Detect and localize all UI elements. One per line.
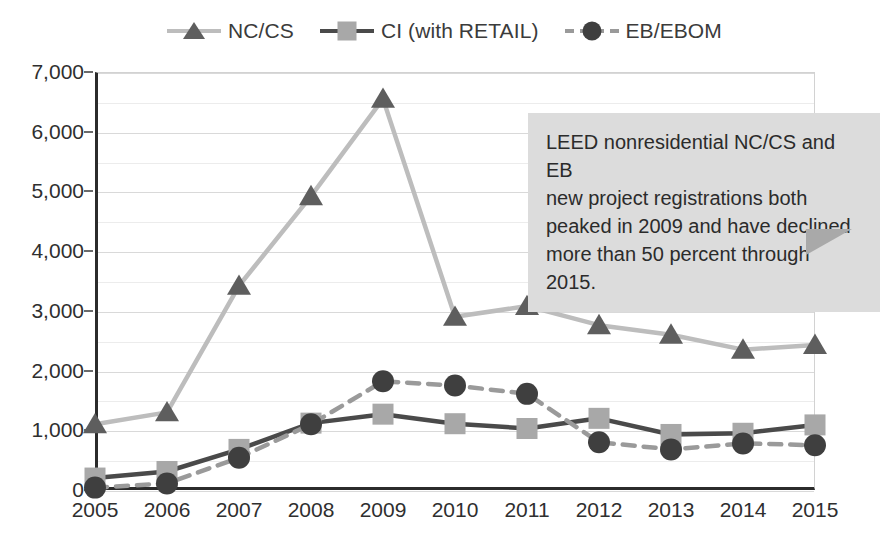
x-axis-tick-label: 2014 <box>720 498 767 522</box>
data-point-marker[interactable] <box>805 414 826 435</box>
data-point-marker[interactable] <box>373 404 394 425</box>
square-marker-icon <box>320 20 374 42</box>
x-axis-tick-label: 2007 <box>216 498 263 522</box>
y-axis-tick-label: 2,000 <box>31 359 84 383</box>
chart-legend: NC/CS CI (with RETAIL) EB/EBOM <box>0 14 889 48</box>
legend-item-eb-ebom[interactable]: EB/EBOM <box>565 19 722 43</box>
data-point-marker[interactable] <box>660 438 682 460</box>
y-axis-tick-label: 4,000 <box>31 239 84 263</box>
y-axis: 01,0002,0003,0004,0005,0006,0007,000 <box>0 72 84 490</box>
y-axis-tick-label: 7,000 <box>31 60 84 84</box>
data-point-marker[interactable] <box>84 477 106 499</box>
data-point-marker[interactable] <box>516 383 538 405</box>
y-axis-tick-mark <box>84 370 93 372</box>
legend-label-nc-cs: NC/CS <box>228 19 294 43</box>
gridline <box>98 491 814 492</box>
y-axis-tick-mark <box>84 190 93 192</box>
x-axis: 2005200620072008200920102011201220132014… <box>95 498 815 530</box>
y-axis-tick-label: 1,000 <box>31 418 84 442</box>
data-point-marker[interactable] <box>156 472 178 494</box>
data-point-marker[interactable] <box>228 447 250 469</box>
legend-item-nc-cs[interactable]: NC/CS <box>167 19 294 43</box>
data-point-marker[interactable] <box>300 413 322 435</box>
callout-annotation: LEED nonresidential NC/CS and EB new pro… <box>528 113 880 312</box>
legend-label-ci-retail: CI (with RETAIL) <box>381 19 539 43</box>
x-axis-tick-label: 2012 <box>576 498 623 522</box>
chart-container: NC/CS CI (with RETAIL) EB/EBOM 01,0002,0… <box>0 0 889 551</box>
legend-label-eb-ebom: EB/EBOM <box>626 19 722 43</box>
data-point-marker[interactable] <box>155 401 179 421</box>
data-point-marker[interactable] <box>589 408 610 429</box>
x-axis-tick-label: 2013 <box>648 498 695 522</box>
callout-line-1: LEED nonresidential NC/CS and EB <box>546 128 862 184</box>
data-point-marker[interactable] <box>804 434 826 456</box>
y-axis-tick-label: 6,000 <box>31 120 84 144</box>
data-point-marker[interactable] <box>588 431 610 453</box>
x-axis-tick-label: 2009 <box>360 498 407 522</box>
y-axis-tick-label: 3,000 <box>31 299 84 323</box>
x-axis-tick-label: 2008 <box>288 498 335 522</box>
y-axis-tick-mark <box>84 71 93 73</box>
legend-item-ci-retail[interactable]: CI (with RETAIL) <box>320 19 539 43</box>
legend-marker-nc-cs <box>183 22 205 39</box>
x-axis-tick-label: 2015 <box>792 498 839 522</box>
callout-tail-icon <box>806 229 852 255</box>
y-axis-tick-mark <box>84 131 93 133</box>
triangle-marker-icon <box>167 20 221 42</box>
data-point-marker[interactable] <box>732 432 754 454</box>
x-axis-tick-label: 2010 <box>432 498 479 522</box>
data-point-marker[interactable] <box>371 87 395 107</box>
y-axis-tick-mark <box>84 310 93 312</box>
circle-marker-icon <box>565 20 619 42</box>
data-point-marker[interactable] <box>372 370 394 392</box>
data-point-marker[interactable] <box>445 413 466 434</box>
data-point-marker[interactable] <box>444 375 466 397</box>
x-axis-tick-label: 2011 <box>504 498 549 522</box>
y-axis-tick-label: 5,000 <box>31 179 84 203</box>
y-axis-tick-mark <box>84 250 93 252</box>
data-point-marker[interactable] <box>517 418 538 439</box>
legend-marker-eb-ebom <box>582 22 601 41</box>
callout-line-2: new project registrations both <box>546 184 862 212</box>
x-axis-tick-label: 2006 <box>144 498 191 522</box>
legend-marker-ci-retail <box>337 22 356 41</box>
x-axis-tick-label: 2005 <box>72 498 119 522</box>
